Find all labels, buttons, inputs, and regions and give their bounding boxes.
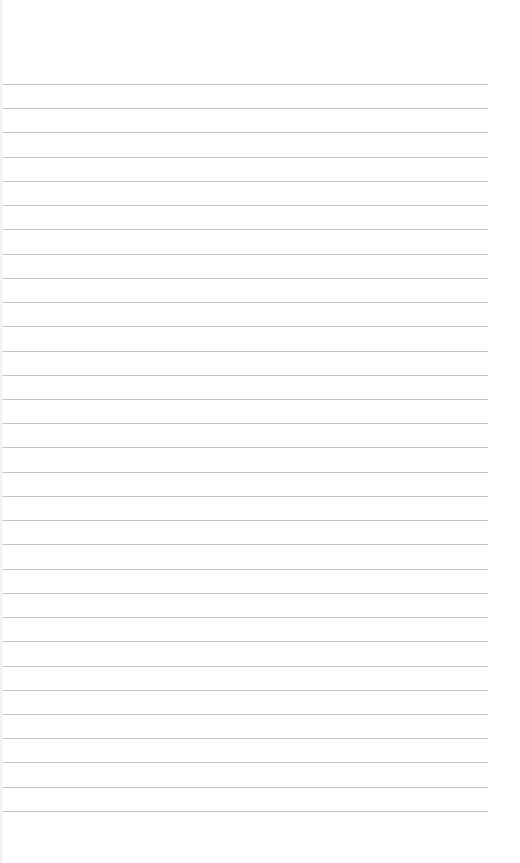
ruled-line bbox=[3, 132, 488, 133]
ruled-line bbox=[3, 84, 488, 85]
ruled-line bbox=[3, 714, 488, 715]
ruled-line bbox=[3, 593, 488, 594]
ruled-line bbox=[3, 447, 488, 448]
ruled-line bbox=[3, 666, 488, 667]
ruled-line bbox=[3, 811, 488, 812]
ruled-line bbox=[3, 569, 488, 570]
ruled-line bbox=[3, 472, 488, 473]
ruled-line bbox=[3, 375, 488, 376]
ruled-line bbox=[3, 157, 488, 158]
ruled-line bbox=[3, 738, 488, 739]
ruled-lines bbox=[0, 0, 520, 863]
ruled-line bbox=[3, 351, 488, 352]
ruled-line bbox=[3, 302, 488, 303]
ruled-line bbox=[3, 326, 488, 327]
ruled-line bbox=[3, 690, 488, 691]
ruled-line bbox=[3, 278, 488, 279]
ruled-line bbox=[3, 641, 488, 642]
ruled-line bbox=[3, 787, 488, 788]
ruled-line bbox=[3, 496, 488, 497]
ruled-line bbox=[3, 229, 488, 230]
ruled-line bbox=[3, 762, 488, 763]
ruled-line bbox=[3, 544, 488, 545]
ruled-line bbox=[3, 520, 488, 521]
ruled-line bbox=[3, 423, 488, 424]
ruled-line bbox=[3, 399, 488, 400]
ruled-line bbox=[3, 254, 488, 255]
ruled-line bbox=[3, 205, 488, 206]
ruled-line bbox=[3, 108, 488, 109]
ruled-line bbox=[3, 181, 488, 182]
ruled-line bbox=[3, 617, 488, 618]
